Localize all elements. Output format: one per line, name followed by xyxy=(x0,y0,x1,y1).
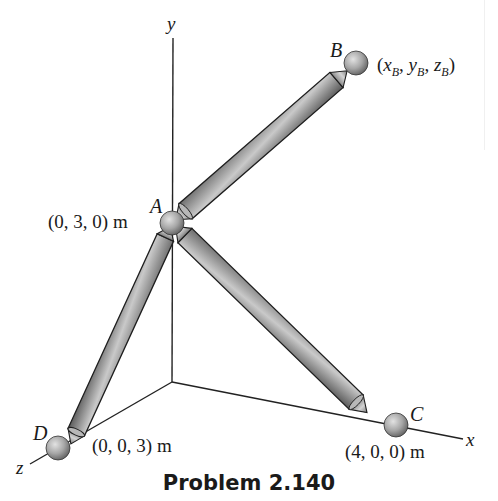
member-AD xyxy=(63,223,179,448)
coord-y: y xyxy=(409,54,417,75)
y-axis-label: y xyxy=(167,14,175,33)
point-B-label: B xyxy=(330,40,342,60)
sep-2: , xyxy=(424,54,434,75)
point-D-label: D xyxy=(33,423,47,443)
point-D-coords: (0, 0, 3) m xyxy=(92,436,172,455)
x-axis-label: x xyxy=(466,430,474,449)
member-AB xyxy=(169,63,353,227)
sub-x: B xyxy=(392,65,399,79)
point-C-coords: (4, 0, 0) m xyxy=(345,442,425,461)
point-A-coords: (0, 3, 0) m xyxy=(48,212,128,231)
point-B-coords: (xB, yB, zB) xyxy=(377,55,455,74)
joint-A-ball xyxy=(160,211,184,235)
joint-C-ball xyxy=(384,413,408,437)
member-AC xyxy=(169,219,374,419)
y-axis-line xyxy=(172,38,173,382)
paren-close: ) xyxy=(449,54,455,75)
sub-y: B xyxy=(417,65,424,79)
figure-caption: Problem 2.140 xyxy=(0,471,498,495)
joint-B-ball xyxy=(344,51,368,75)
point-A-label: A xyxy=(150,196,162,216)
coord-x: x xyxy=(383,54,391,75)
joint-D-ball xyxy=(46,436,70,460)
sep-1: , xyxy=(399,54,409,75)
point-C-label: C xyxy=(410,404,423,424)
sub-z: B xyxy=(441,65,448,79)
